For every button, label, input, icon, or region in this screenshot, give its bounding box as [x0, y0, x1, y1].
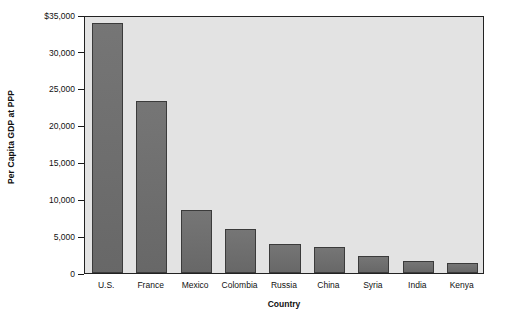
bar-russia[interactable] — [269, 244, 300, 273]
bar-chart-figure: Per Capita GDP at PPP 05,00010,00015,000… — [0, 0, 508, 326]
y-axis-title: Per Capita GDP at PPP — [0, 0, 22, 274]
y-axis-tick-label: 10,000 — [49, 196, 78, 205]
x-axis-tick-label: U.S. — [84, 278, 128, 292]
bar-colombia[interactable] — [225, 229, 256, 273]
plot-panel — [84, 16, 484, 274]
x-axis-tick-label: Kenya — [440, 278, 484, 292]
x-axis-tick-label: Syria — [351, 278, 395, 292]
x-axis-tick-label: China — [306, 278, 350, 292]
y-axis-tick-label: $35,000 — [44, 12, 78, 21]
y-axis-tick-label: 5,000 — [54, 233, 78, 242]
bar-mexico[interactable] — [181, 210, 212, 273]
bar-china[interactable] — [314, 247, 345, 273]
x-axis-title: Country — [84, 299, 484, 309]
x-axis-tick-label: Russia — [262, 278, 306, 292]
bar-india[interactable] — [403, 261, 434, 273]
y-axis: 05,00010,00015,00020,00025,00030,000$35,… — [22, 0, 84, 326]
bar-france[interactable] — [136, 101, 167, 273]
y-axis-tick-label: 20,000 — [49, 122, 78, 131]
x-axis-tick-label: Mexico — [173, 278, 217, 292]
x-axis-tick-label: France — [128, 278, 172, 292]
y-axis-tick-label: 0 — [70, 270, 78, 279]
bar-kenya[interactable] — [447, 263, 478, 273]
x-axis-tick-labels: U.S.FranceMexicoColombiaRussiaChinaSyria… — [84, 278, 484, 294]
y-axis-tick-label: 15,000 — [49, 159, 78, 168]
x-axis-tick-label: India — [395, 278, 439, 292]
bar-syria[interactable] — [358, 256, 389, 273]
bar-u-s[interactable] — [92, 23, 123, 273]
y-axis-tick-label: 25,000 — [49, 85, 78, 94]
y-axis-tick-label: 30,000 — [49, 49, 78, 58]
y-axis-title-text: Per Capita GDP at PPP — [6, 90, 16, 184]
bars-container — [85, 17, 483, 273]
x-axis-tick-label: Colombia — [217, 278, 261, 292]
